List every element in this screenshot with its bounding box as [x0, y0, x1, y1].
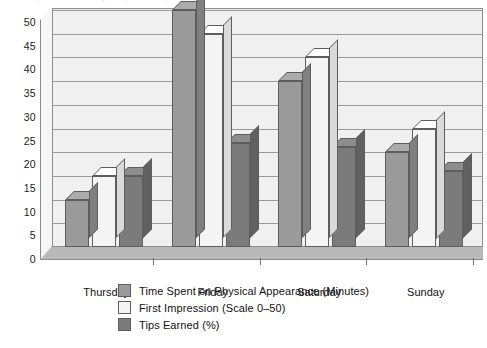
bar-saturday-series1 [278, 81, 302, 247]
bar-side-face [196, 0, 205, 238]
y-axis-tick-label: 10 [10, 206, 36, 218]
bar-side-face [329, 39, 338, 238]
bar-front-face [385, 152, 409, 247]
y-axis-tick-label: 5 [10, 229, 36, 241]
bar-series-group [40, 8, 483, 278]
bar-side-face [143, 158, 152, 238]
x-axis-tick [153, 258, 154, 265]
legend-label: First Impression (Scale 0–50) [139, 302, 286, 314]
plot-area: ThursdayFridaySaturdaySunday [40, 8, 483, 278]
bar-side-face [116, 158, 125, 238]
legend-swatch-icon [118, 301, 131, 314]
bar-chart: 05101520253035404550 ThursdayFridaySatur… [0, 8, 487, 278]
x-axis-tick [366, 258, 367, 265]
bar-front-face [65, 200, 89, 247]
x-axis-tick [260, 258, 261, 265]
y-axis-tick-label: 50 [10, 16, 36, 28]
x-axis-tick [473, 258, 474, 265]
y-axis-tick-label: 15 [10, 182, 36, 194]
bar-side-face [409, 134, 418, 238]
y-axis-tick-label: 40 [10, 63, 36, 75]
bar-front-face [172, 10, 196, 247]
y-axis-tick-label: 20 [10, 158, 36, 170]
y-axis-tick-label: 35 [10, 87, 36, 99]
chart-legend: Time Spent on Physical Appearance (Minut… [118, 282, 369, 333]
bar-side-face [463, 153, 472, 238]
bar-side-face [223, 16, 232, 238]
legend-swatch-icon [118, 284, 131, 297]
y-axis-tick-label: 0 [10, 253, 36, 265]
bar-side-face [250, 125, 259, 238]
legend-swatch-icon [118, 318, 131, 331]
legend-item[interactable]: First Impression (Scale 0–50) [118, 299, 369, 316]
legend-item[interactable]: Tips Earned (%) [118, 316, 369, 333]
legend-item[interactable]: Time Spent on Physical Appearance (Minut… [118, 282, 369, 299]
bar-friday-series1 [172, 10, 196, 247]
y-axis-tick-label: 30 [10, 111, 36, 123]
y-axis-tick-label: 45 [10, 40, 36, 52]
bar-thursday-series1 [65, 200, 89, 247]
bar-front-face [278, 81, 302, 247]
y-axis-tick-label: 25 [10, 135, 36, 147]
bar-side-face [356, 129, 365, 238]
bar-sunday-series1 [385, 152, 409, 247]
bar-side-face [302, 63, 311, 238]
legend-label: Tips Earned (%) [139, 319, 220, 331]
bar-side-face [89, 182, 98, 238]
x-axis-label-sunday: Sunday [407, 286, 444, 298]
y-axis: 05101520253035404550 [6, 8, 36, 278]
bar-side-face [436, 111, 445, 239]
legend-label: Time Spent on Physical Appearance (Minut… [139, 285, 369, 297]
cropped-caption-text: to assess, and that are the top , but , … [6, 0, 306, 4]
